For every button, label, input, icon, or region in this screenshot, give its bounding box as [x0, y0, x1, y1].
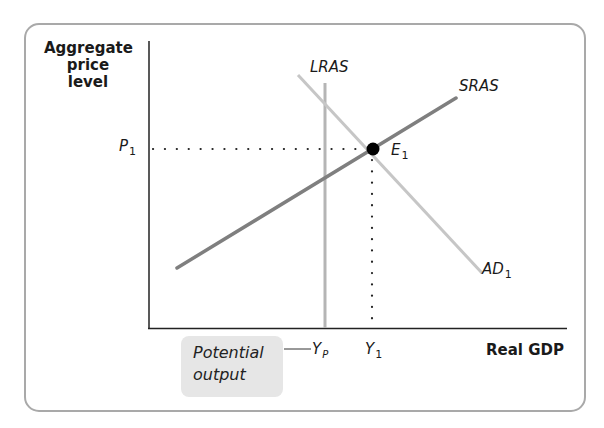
y-axis-title-line-1: Aggregate — [44, 40, 132, 57]
ad1-label: AD1 — [482, 260, 512, 278]
sras-curve — [177, 98, 456, 268]
yp-label-sub: P — [322, 349, 328, 360]
y-axis-title-line-2: price — [44, 57, 132, 74]
y1-label: Y1 — [365, 340, 382, 358]
lras-label: LRAS — [310, 58, 349, 76]
callout-line-2: output — [193, 364, 264, 386]
diagram-canvas: Aggregate price level Real GDP P1 LRAS S… — [0, 0, 604, 428]
ad1-label-sub: 1 — [505, 268, 512, 281]
ad1-label-main: AD — [482, 260, 504, 278]
y1-label-main: Y — [365, 340, 374, 358]
callout-line-1: Potential — [193, 342, 264, 364]
potential-output-text: Potential output — [193, 342, 264, 386]
e1-label-sub: 1 — [401, 149, 408, 162]
e1-label: E1 — [391, 141, 408, 159]
p1-label: P1 — [119, 137, 136, 155]
p1-label-sub: 1 — [129, 145, 136, 158]
y1-label-sub: 1 — [375, 348, 382, 361]
sras-label: SRAS — [459, 77, 499, 95]
yp-label: YP — [312, 340, 328, 358]
equilibrium-point — [367, 143, 380, 156]
e1-label-main: E — [391, 141, 400, 159]
y-axis-title-line-3: level — [44, 74, 132, 91]
p1-label-main: P — [119, 137, 128, 155]
potential-output-callout: Potential output — [181, 336, 283, 397]
yp-label-main: Y — [312, 340, 321, 358]
y-axis-title: Aggregate price level — [44, 40, 132, 91]
x-axis-title: Real GDP — [486, 342, 564, 359]
